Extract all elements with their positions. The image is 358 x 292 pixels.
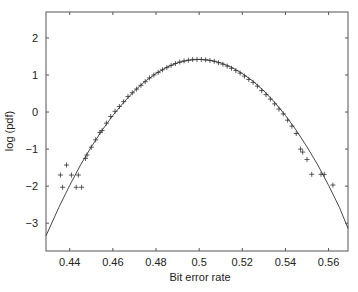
x-axis-label: Bit error rate (169, 271, 230, 283)
plot-area (46, 12, 348, 251)
y-tick-label: −2 (25, 180, 38, 192)
plot-frame (46, 12, 348, 251)
y-tick-label: 0 (32, 106, 38, 118)
y-tick-label: 2 (32, 32, 38, 44)
y-tick-label: −1 (25, 143, 38, 155)
y-tick-label: −3 (25, 217, 38, 229)
x-tick-label: 0.5 (192, 256, 207, 268)
y-axis-label: log (pdf) (3, 111, 15, 151)
bit-error-rate-pdf-chart: 0.440.460.480.50.520.540.56 210−1−2−3 Bi… (0, 0, 358, 292)
x-tick-label: 0.52 (232, 256, 253, 268)
x-tick-label: 0.54 (275, 256, 296, 268)
x-tick-label: 0.56 (318, 256, 339, 268)
y-tick-label: 1 (32, 69, 38, 81)
x-tick-label: 0.46 (102, 256, 123, 268)
x-tick-label: 0.48 (145, 256, 166, 268)
x-tick-label: 0.44 (59, 256, 80, 268)
